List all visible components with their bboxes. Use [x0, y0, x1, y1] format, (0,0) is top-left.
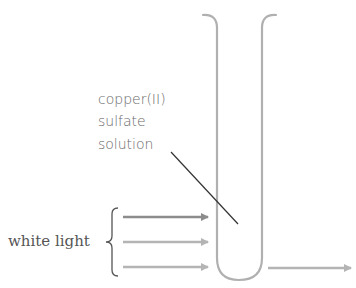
- test-tube: [203, 15, 276, 280]
- solution-label-line-2: sulfate: [98, 113, 146, 129]
- diagram-canvas: copper(II) sulfate solution white light: [0, 0, 356, 288]
- white-light-label: white light: [8, 232, 90, 250]
- solution-label-line-3: solution: [98, 136, 153, 152]
- solution-label: copper(II) sulfate solution: [98, 91, 166, 152]
- solution-label-line-1: copper(II): [98, 91, 166, 107]
- grouping-brace: [106, 208, 118, 276]
- test-tube-outline: [203, 15, 276, 280]
- incoming-light-rays: [123, 217, 208, 267]
- label-pointer-line: [171, 152, 238, 224]
